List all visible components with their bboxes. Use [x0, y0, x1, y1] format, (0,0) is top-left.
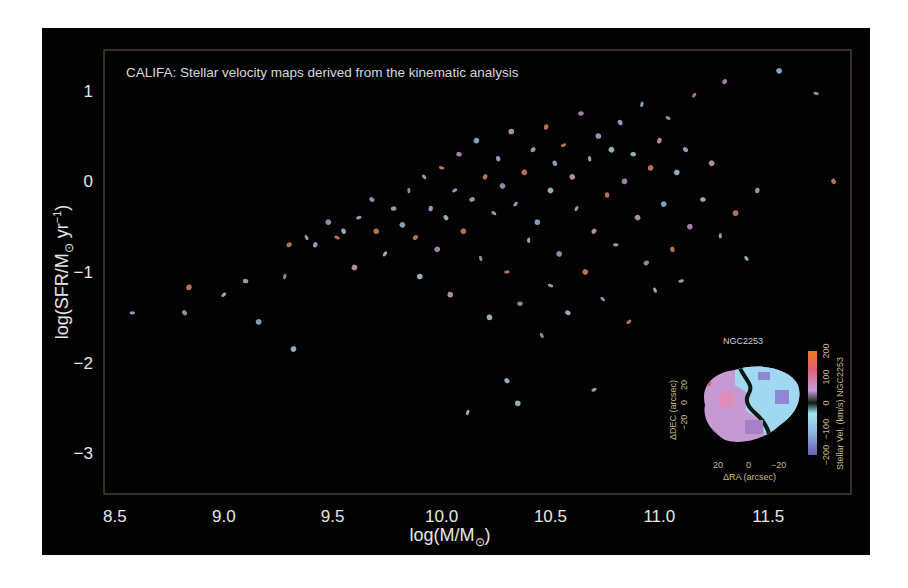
galaxy-point	[743, 255, 749, 261]
inset-title: NGC2253	[723, 336, 763, 346]
galaxy-point	[447, 291, 454, 298]
galaxy-point	[564, 310, 571, 316]
galaxy-point	[351, 264, 359, 272]
galaxy-point	[556, 250, 563, 257]
galaxy-point	[491, 210, 497, 216]
colorbar-tick-label: 200	[821, 343, 831, 358]
galaxy-point	[687, 224, 693, 230]
x-tick-label: 10.5	[534, 507, 567, 526]
galaxy-point	[700, 197, 706, 202]
galaxy-point	[560, 143, 566, 148]
inset-x-tick: −20	[771, 460, 786, 470]
galaxy-point	[508, 129, 514, 135]
galaxy-point	[830, 178, 837, 185]
galaxy-point	[373, 228, 380, 235]
galaxy-point	[678, 279, 684, 283]
galaxy-point	[529, 146, 536, 153]
galaxy-point	[456, 151, 463, 157]
galaxy-point	[708, 159, 716, 167]
galaxy-point	[439, 166, 445, 170]
galaxy-point	[621, 178, 627, 184]
galaxy-point	[605, 192, 609, 198]
galaxy-point	[221, 292, 227, 298]
galaxy-point	[412, 234, 419, 241]
galaxy-point	[514, 400, 521, 407]
galaxy-point	[517, 301, 523, 306]
galaxy-point	[496, 156, 501, 162]
colorbar-ticks: −200−1000100200	[821, 343, 831, 465]
galaxy-point	[547, 283, 553, 288]
galaxy-point	[186, 284, 192, 290]
galaxy-point	[527, 237, 531, 243]
galaxy-point	[578, 111, 584, 117]
galaxy-point	[460, 227, 467, 234]
galaxy-point	[673, 168, 681, 176]
galaxy-point	[130, 311, 136, 314]
galaxy-point	[433, 245, 441, 253]
galaxy-point	[691, 92, 697, 98]
inset-y-tick: −20	[679, 415, 689, 430]
galaxy-point	[813, 91, 819, 95]
y-tick-label: 0	[84, 172, 93, 191]
galaxy-point	[640, 101, 645, 107]
galaxy-point	[443, 214, 450, 221]
galaxy-point	[478, 255, 483, 261]
galaxy-point	[652, 287, 657, 293]
galaxy-point	[595, 133, 601, 139]
galaxy-point	[520, 168, 528, 176]
x-tick-label: 9.0	[212, 507, 236, 526]
galaxy-point	[574, 205, 580, 211]
colorbar-label: Stellar Vel. (km/s) NGC2253	[835, 357, 845, 470]
galaxy-point	[660, 200, 667, 207]
inset-y-tick: 20	[679, 380, 689, 390]
galaxy-point	[600, 296, 606, 302]
galaxy-point	[469, 196, 476, 202]
galaxy-point	[421, 174, 427, 180]
galaxy-point	[547, 187, 555, 195]
colorbar-tick-label: 100	[821, 369, 831, 384]
y-axis-ticks: 10−1−2−3	[74, 82, 93, 463]
galaxy-point	[499, 182, 507, 190]
galaxy-point	[647, 164, 654, 171]
x-tick-label: 9.5	[321, 507, 345, 526]
galaxy-point	[591, 228, 598, 235]
galaxy-point	[417, 274, 423, 280]
galaxy-point	[407, 188, 410, 194]
galaxy-point	[504, 270, 510, 274]
y-tick-label: 1	[84, 82, 93, 101]
y-tick-label: −2	[74, 354, 93, 373]
galaxy-point	[613, 243, 619, 246]
galaxy-point	[543, 124, 549, 130]
galaxy-point	[382, 251, 388, 257]
inset-x-tick: 0	[746, 460, 751, 470]
galaxy-point	[607, 146, 615, 154]
galaxy-point	[775, 67, 783, 75]
galaxy-point	[334, 235, 340, 240]
inset-velocity-map: NGC2253 20 0 −20 ΔRA (arcsec) ΔDEC (arcs…	[668, 336, 845, 482]
x-axis-ticks: 8.59.09.510.010.511.011.5	[103, 507, 784, 526]
y-axis-label: log(SFR/M⊙ yr−1)	[51, 205, 76, 340]
galaxy-point	[719, 233, 722, 239]
galaxy-point	[465, 409, 470, 415]
galaxy-point	[325, 218, 332, 225]
galaxy-point	[391, 206, 397, 211]
galaxy-point	[634, 214, 642, 222]
galaxy-point	[368, 196, 375, 203]
galaxy-point	[398, 221, 406, 229]
galaxy-point	[733, 210, 739, 216]
galaxy-point	[643, 260, 650, 267]
galaxy-point	[617, 119, 624, 126]
inset-x-label: ΔRA (arcsec)	[723, 472, 776, 482]
y-tick-label: −1	[74, 263, 93, 282]
x-tick-label: 11.0	[643, 507, 675, 526]
galaxy-point	[588, 156, 592, 162]
galaxy-point	[656, 137, 662, 144]
galaxy-point	[181, 309, 188, 316]
inset-y-tick: 0	[679, 400, 689, 405]
galaxy-point	[341, 228, 347, 235]
galaxy-point	[591, 387, 597, 392]
scatter-points	[130, 67, 837, 416]
galaxy-point	[242, 278, 248, 283]
galaxy-point	[473, 137, 480, 144]
velocity-map-image	[700, 360, 810, 450]
